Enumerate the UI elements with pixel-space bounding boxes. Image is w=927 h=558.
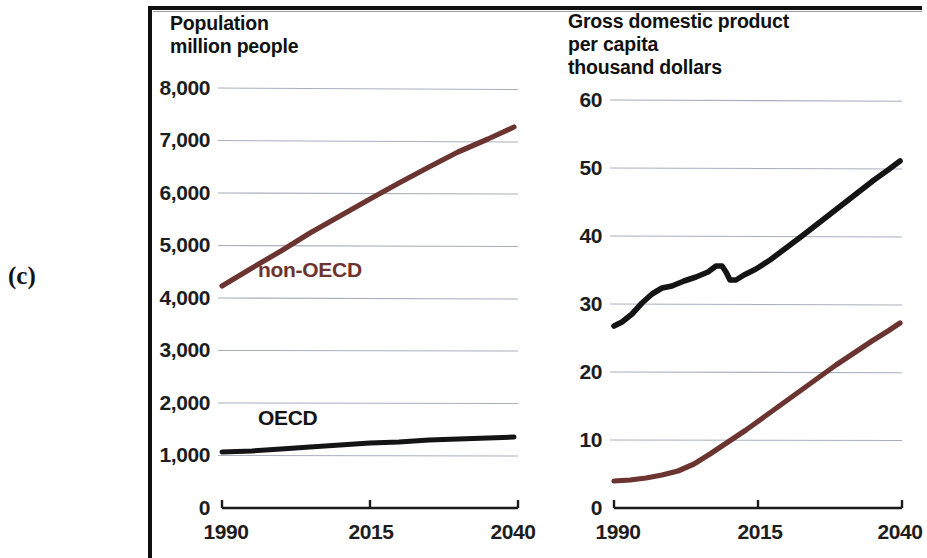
gdp-plot-area: 60 50 40 30 20 10 0 1990 2015 2040	[610, 100, 920, 508]
population-series-label-oecd: OECD	[258, 406, 317, 430]
population-ytick-4000: 4,000	[128, 286, 210, 310]
gdp-ytick-10: 10	[550, 428, 602, 452]
gdp-series-non-oecd-line	[614, 323, 900, 481]
gridline-30	[610, 304, 902, 305]
population-series-oecd-line	[222, 437, 514, 452]
population-ytick-5000: 5,000	[128, 233, 210, 257]
population-ytick-7000: 7,000	[128, 128, 210, 152]
gdp-ytick-50: 50	[550, 156, 602, 180]
gridline-5000	[218, 246, 518, 247]
figure-label: (c)	[8, 262, 36, 290]
gdp-panel-units: thousand dollars	[568, 56, 722, 79]
gridline-8000	[218, 88, 518, 90]
gdp-ytick-20: 20	[550, 360, 602, 384]
gridline-40	[610, 236, 902, 237]
gridline-10	[610, 440, 902, 441]
gridline-4000	[218, 298, 518, 299]
gdp-xtick-1990: 1990	[573, 520, 663, 544]
gdp-xtick-2015: 2015	[715, 520, 805, 544]
population-plot-area: 8,000 7,000 6,000 5,000 4,000 3,000 2,00…	[218, 88, 538, 508]
panel-population: Population million people 8,000 7,000 6,…	[148, 0, 548, 558]
gridline-1000	[218, 456, 518, 457]
gridline-3000	[218, 351, 518, 352]
gdp-ytick-0: 0	[550, 496, 602, 520]
population-ytick-6000: 6,000	[128, 181, 210, 205]
gridline-7000	[218, 141, 518, 143]
population-ytick-3000: 3,000	[128, 338, 210, 362]
population-x-axis	[222, 500, 518, 508]
population-panel-units: million people	[170, 35, 298, 58]
gridline-6000	[218, 193, 518, 194]
population-xtick-2015: 2015	[326, 520, 416, 544]
gdp-xtick-2040: 2040	[855, 520, 927, 544]
panel-gdp-per-capita: Gross domestic product per capita thousa…	[548, 0, 922, 558]
gridline-2000	[218, 403, 518, 404]
population-xtick-2040: 2040	[468, 520, 558, 544]
population-chart-svg	[218, 88, 538, 513]
population-ytick-2000: 2,000	[128, 391, 210, 415]
gridline-20	[610, 372, 902, 373]
gdp-ytick-60: 60	[550, 88, 602, 112]
gdp-panel-title: Gross domestic product per capita	[568, 10, 898, 56]
population-panel-title: Population	[170, 12, 269, 35]
gdp-ytick-30: 30	[550, 292, 602, 316]
population-series-label-non-oecd: non-OECD	[258, 258, 362, 282]
gridline-50	[610, 168, 902, 169]
population-xtick-1990: 1990	[181, 520, 271, 544]
gdp-series-oecd-line	[614, 161, 900, 326]
population-ytick-0: 0	[128, 496, 210, 520]
gdp-ytick-40: 40	[550, 224, 602, 248]
population-ytick-1000: 1,000	[128, 443, 210, 467]
gdp-chart-svg	[610, 100, 920, 515]
gdp-x-axis	[614, 500, 902, 508]
population-ytick-8000: 8,000	[128, 76, 210, 100]
gridline-60	[610, 100, 902, 101]
